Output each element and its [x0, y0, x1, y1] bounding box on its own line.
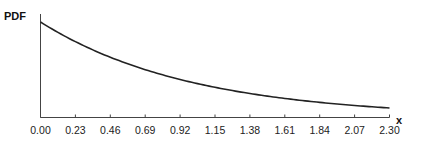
x-tick-label: 2.07 [344, 124, 365, 136]
y-axis-title: PDF [4, 10, 26, 22]
pdf-chart: 0.000.230.460.690.921.151.381.611.842.07… [0, 0, 426, 145]
x-axis-title: x [396, 114, 403, 126]
x-tick-label: 0.69 [135, 124, 156, 136]
x-tick-label: 1.84 [309, 124, 330, 136]
x-tick-label: 1.38 [240, 124, 261, 136]
pdf-curve [41, 22, 390, 108]
x-tick-label: 0.92 [170, 124, 191, 136]
x-tick-label: 1.61 [275, 124, 296, 136]
x-tick-label: 1.15 [205, 124, 226, 136]
x-tick-label: 0.23 [65, 124, 86, 136]
x-tick-label: 0.46 [100, 124, 121, 136]
x-tick-label: 0.00 [30, 124, 51, 136]
x-axis-tick-labels: 0.000.230.460.690.921.151.381.611.842.07… [30, 124, 400, 136]
